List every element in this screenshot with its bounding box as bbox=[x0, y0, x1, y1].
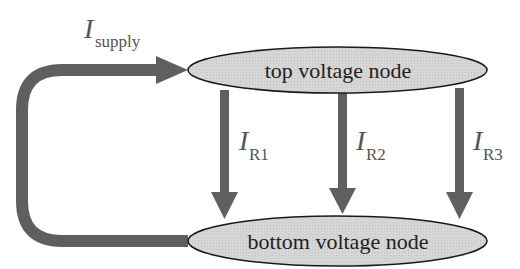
supply-current-symbol: I bbox=[83, 13, 95, 44]
supply-current-label: I supply bbox=[83, 13, 141, 51]
current-flow-diagram: top voltage node bottom voltage node I s… bbox=[0, 0, 520, 269]
r2-current-label: I R2 bbox=[355, 125, 386, 164]
r3-current-arrow bbox=[446, 88, 473, 219]
bottom-node-label: bottom voltage node bbox=[248, 229, 429, 254]
top-node-label: top voltage node bbox=[265, 58, 412, 83]
r1-current-arrow bbox=[211, 90, 238, 219]
bottom-voltage-node: bottom voltage node bbox=[188, 216, 487, 266]
r1-current-subscript: R1 bbox=[249, 145, 269, 164]
r3-current-subscript: R3 bbox=[483, 145, 503, 164]
top-voltage-node: top voltage node bbox=[188, 47, 487, 93]
supply-current-arrow bbox=[22, 56, 188, 241]
r3-current-label: I R3 bbox=[472, 125, 503, 164]
r1-current-label: I R1 bbox=[238, 125, 269, 164]
r2-current-subscript: R2 bbox=[366, 145, 386, 164]
r2-current-arrow bbox=[329, 92, 356, 214]
supply-current-subscript: supply bbox=[95, 32, 141, 51]
